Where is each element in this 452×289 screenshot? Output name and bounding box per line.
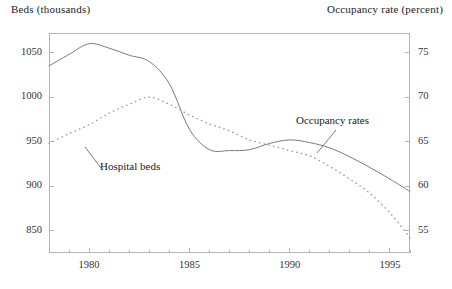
chart-plot-area [0, 0, 452, 289]
axis-ticks [49, 53, 410, 253]
y-tick-right-60: 60 [418, 179, 429, 190]
leader-line-1 [85, 147, 101, 168]
y-tick-left-1000: 1000 [2, 90, 42, 101]
y-tick-right-55: 55 [418, 224, 429, 235]
y-tick-right-65: 65 [418, 135, 429, 146]
x-tick-1985: 1985 [167, 259, 211, 270]
annotation-hospital-beds: Hospital beds [100, 160, 160, 172]
y-tick-right-70: 70 [418, 90, 429, 101]
y-tick-left-900: 900 [2, 179, 42, 190]
x-tick-1995: 1995 [368, 259, 412, 270]
data-series-group [49, 44, 410, 238]
annotation-occupancy-rates: Occupancy rates [296, 114, 369, 126]
chart-container: Beds (thousands) Occupancy rate (percent… [0, 0, 452, 289]
y-tick-left-1050: 1050 [2, 46, 42, 57]
x-tick-1990: 1990 [268, 259, 312, 270]
y-tick-right-75: 75 [418, 46, 429, 57]
y-tick-left-950: 950 [2, 135, 42, 146]
x-tick-1980: 1980 [67, 259, 111, 270]
y-tick-left-850: 850 [2, 224, 42, 235]
